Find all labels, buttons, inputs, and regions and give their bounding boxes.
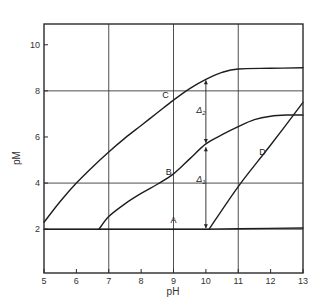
delta-label: Δ1 (195, 174, 205, 185)
arrowhead-down-icon (204, 224, 208, 228)
axis-ticks: 5678910111213246810 (30, 40, 308, 286)
y-tick-label: 4 (35, 178, 40, 188)
y-tick-label: 6 (35, 132, 40, 142)
x-tick-label: 5 (41, 276, 46, 286)
x-tick-label: 6 (74, 276, 79, 286)
x-axis-label: pH (167, 286, 180, 297)
y-tick-label: 2 (35, 224, 40, 234)
curve-label-a: A (170, 215, 176, 225)
x-tick-label: 9 (171, 276, 176, 286)
curve-label-d: D (259, 147, 266, 157)
arrowhead-up-icon (204, 147, 208, 151)
x-tick-label: 13 (298, 276, 308, 286)
x-tick-label: 8 (139, 276, 144, 286)
x-tick-label: 7 (106, 276, 111, 286)
delta-label: Δ2 (195, 105, 206, 116)
y-axis-label: pM (11, 151, 22, 165)
curve-label-b: B (166, 167, 172, 177)
delta-arrow-1: Δ2 (195, 80, 208, 143)
delta-arrow-2: Δ1 (195, 147, 208, 228)
arrowhead-up-icon (204, 80, 208, 84)
x-tick-label: 11 (234, 276, 243, 286)
curve-d (209, 102, 303, 229)
curve-label-c: C (162, 90, 169, 100)
ph-vs-pm-chart: 5678910111213246810 ABCD Δ2Δ1 pH pM (0, 0, 326, 308)
y-tick-label: 10 (30, 40, 40, 50)
x-tick-label: 12 (266, 276, 276, 286)
x-tick-label: 10 (201, 276, 211, 286)
y-tick-label: 8 (35, 86, 40, 96)
curve-b (99, 115, 303, 229)
delta-annotations: Δ2Δ1 (195, 80, 208, 228)
